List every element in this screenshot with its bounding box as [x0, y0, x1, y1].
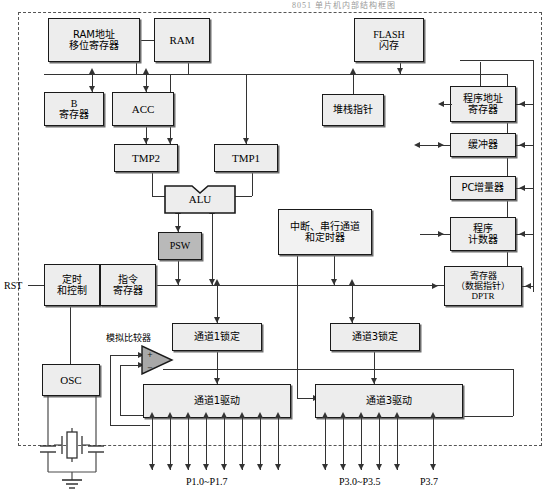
- block-flash[interactable]: FLASH 闪存: [354, 18, 424, 62]
- interrupt-left-leg: [297, 255, 298, 380]
- rst-label: RST: [4, 280, 22, 291]
- cmp-in-plus-h: [110, 355, 140, 356]
- block-channel1-latch[interactable]: 通道1锁定: [172, 323, 262, 351]
- block-program-address-register[interactable]: 程序地址 寄存器: [450, 86, 516, 122]
- block-acc[interactable]: ACC: [112, 92, 174, 126]
- crystal-oscillator-circuit: [22, 396, 132, 496]
- block-interrupt-serial-timer[interactable]: 中断、串行通道 和定时器: [278, 209, 372, 255]
- internal-bus-upper: [44, 74, 508, 75]
- flash-bus-arrow: [397, 68, 403, 74]
- psw-lowbus-arrow: [175, 279, 181, 285]
- alu-lowbus-line: [212, 214, 213, 285]
- block-buffer[interactable]: 缓冲器: [450, 133, 516, 157]
- interrupt-right-arrow: [331, 279, 337, 285]
- bus-to-tmp1-line: [246, 74, 247, 144]
- svg-text:−: −: [147, 364, 153, 372]
- block-tmp2[interactable]: TMP2: [114, 144, 178, 172]
- port1-pins-label: P1.0~P1.7: [186, 476, 228, 487]
- block-ram[interactable]: RAM: [154, 18, 210, 62]
- block-channel1-driver[interactable]: 通道1驱动: [143, 384, 291, 418]
- osc-timing-line: [70, 305, 71, 365]
- ch3drv-feed-v: [297, 380, 298, 398]
- breg-bus-arrow-up: [89, 68, 95, 74]
- block-ram-address-shift-register[interactable]: RAM地址 移位寄存器: [48, 18, 140, 62]
- block-osc[interactable]: OSC: [42, 364, 100, 396]
- analog-comparator-icon[interactable]: + −: [140, 345, 174, 375]
- port37-pin-label: P3.7: [420, 476, 438, 487]
- tmp2-alu-v: [152, 172, 153, 196]
- svg-text:+: +: [147, 351, 153, 359]
- block-alu[interactable]: ALU: [164, 184, 236, 214]
- ch3latch-up-arrow: [349, 279, 355, 285]
- stack-to-bus: [353, 74, 354, 94]
- block-diagram-canvas: 8051 单片机内部结构框图: [0, 0, 552, 501]
- comparator-output-line: [163, 369, 513, 370]
- right-outer-bus: [533, 60, 534, 292]
- acc-bus-arrow-up: [143, 68, 149, 74]
- tmp1-alu-v: [252, 172, 253, 196]
- block-program-counter[interactable]: 程序 计数器: [450, 217, 516, 251]
- block-instruction-register[interactable]: 指令 寄存器: [100, 264, 156, 306]
- block-dptr-register[interactable]: 寄存器 （数据指针） DPTR: [444, 266, 522, 306]
- diagram-title: 8051 单片机内部结构框图: [292, 0, 396, 10]
- analog-comparator-label: 模拟比较器: [106, 331, 151, 344]
- block-channel3-latch[interactable]: 通道3锁定: [330, 323, 420, 351]
- block-channel3-driver[interactable]: 通道3驱动: [315, 384, 463, 418]
- flash-feedback-line: [460, 60, 534, 61]
- block-timing-and-control[interactable]: 定时 和控制: [44, 264, 100, 306]
- block-tmp1[interactable]: TMP1: [214, 144, 278, 172]
- block-stack-pointer[interactable]: 堆栈指针: [322, 94, 384, 126]
- block-b-register[interactable]: B 寄存器: [44, 92, 104, 126]
- block-pc-incrementer[interactable]: PC增量器: [450, 176, 516, 200]
- port3-pins-label: P3.0~P3.5: [339, 476, 381, 487]
- comparator-output-v: [513, 369, 514, 416]
- ch1latch-up-arrow: [214, 279, 220, 285]
- stack-bus-arrow: [350, 68, 356, 74]
- cmp-in-minus-h: [120, 365, 140, 366]
- alu-label: ALU: [164, 193, 236, 205]
- block-psw[interactable]: PSW: [158, 232, 202, 260]
